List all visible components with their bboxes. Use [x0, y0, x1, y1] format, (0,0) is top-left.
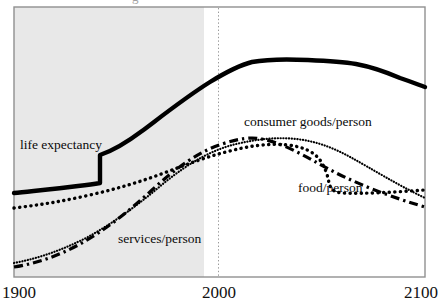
- label-services: services/person: [118, 231, 201, 246]
- clipped-title-artifact: g: [132, 0, 168, 4]
- xtick-label-2100: 2100: [404, 283, 438, 302]
- label-life-expectancy: life expectancy: [20, 137, 102, 152]
- chart-figure: g life expectancy consumer goods/person …: [0, 0, 440, 305]
- label-food: food/person: [298, 180, 363, 195]
- xtick-label-1900: 1900: [2, 283, 36, 302]
- clipped-title-text: g: [132, 0, 168, 3]
- chart-svg: life expectancy consumer goods/person fo…: [0, 0, 440, 305]
- xtick-label-2000: 2000: [202, 283, 236, 302]
- label-consumer-goods: consumer goods/person: [244, 114, 372, 129]
